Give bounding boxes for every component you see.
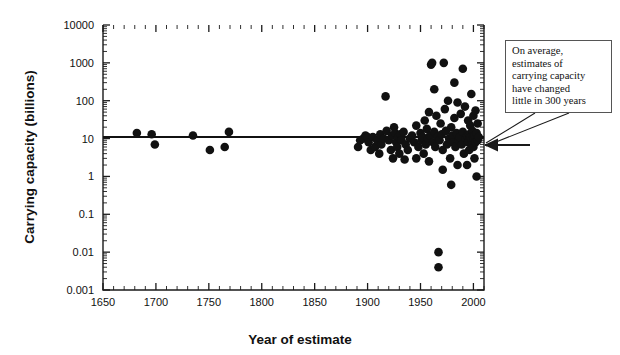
data-point: [420, 116, 429, 125]
data-point: [474, 133, 483, 142]
y-tick-label: 10: [82, 133, 94, 145]
data-point: [428, 59, 437, 68]
x-axis-title: Year of estimate: [248, 332, 352, 347]
data-point: [463, 161, 472, 170]
data-point: [434, 263, 443, 272]
data-point: [399, 128, 408, 137]
y-tick-label: 1: [88, 170, 94, 182]
data-point: [447, 181, 456, 190]
data-point: [459, 64, 468, 73]
data-point: [404, 146, 413, 155]
data-point: [434, 248, 443, 257]
data-point: [444, 96, 453, 105]
data-point: [400, 155, 409, 164]
data-point: [375, 149, 384, 158]
tick-labels: 0.0010.010.11101001000100001650170017501…: [63, 19, 485, 308]
data-point: [220, 143, 229, 152]
data-points: [133, 59, 483, 272]
y-tick-label: 0.01: [73, 246, 94, 258]
data-point: [441, 105, 450, 114]
data-point: [133, 129, 142, 138]
data-point: [381, 92, 390, 101]
y-tick-label: 1000: [70, 57, 94, 69]
data-point: [471, 106, 480, 115]
annotation-callout: On average, estimates of carrying capaci…: [505, 40, 612, 113]
data-point: [430, 85, 439, 94]
data-point: [425, 157, 434, 166]
data-point: [432, 111, 441, 120]
x-tick-label: 1900: [355, 296, 379, 308]
y-tick-label: 100: [76, 95, 94, 107]
data-point: [151, 140, 160, 149]
data-point: [412, 121, 421, 130]
data-point: [425, 108, 434, 117]
x-tick-label: 1750: [197, 296, 221, 308]
y-tick-label: 0.001: [66, 284, 94, 296]
data-point: [456, 110, 465, 119]
data-point: [473, 119, 482, 128]
x-tick-label: 1700: [144, 296, 168, 308]
x-tick-label: 1800: [250, 296, 274, 308]
data-point: [147, 130, 156, 139]
x-tick-label: 1650: [91, 296, 115, 308]
data-point: [470, 154, 479, 163]
data-point: [467, 90, 476, 99]
data-point: [446, 154, 455, 163]
data-point: [439, 59, 448, 68]
y-tick-label: 10000: [63, 19, 94, 31]
data-point: [453, 161, 462, 170]
data-point: [436, 119, 445, 128]
y-axis-title: Carrying capacity (billions): [22, 70, 37, 243]
data-point: [189, 131, 198, 140]
data-point: [419, 149, 428, 158]
data-point: [461, 102, 470, 111]
data-point: [412, 154, 421, 163]
x-tick-label: 1950: [408, 296, 432, 308]
data-point: [453, 98, 462, 107]
y-tick-label: 0.1: [79, 208, 94, 220]
data-point: [225, 128, 234, 137]
data-point: [438, 165, 447, 174]
annotation-arrow: [484, 113, 569, 152]
x-tick-label: 1850: [302, 296, 326, 308]
data-point: [206, 146, 215, 155]
data-point: [450, 78, 459, 87]
data-point: [472, 172, 481, 181]
chart-figure: 0.0010.010.11101001000100001650170017501…: [0, 0, 620, 355]
x-tick-label: 2000: [461, 296, 485, 308]
